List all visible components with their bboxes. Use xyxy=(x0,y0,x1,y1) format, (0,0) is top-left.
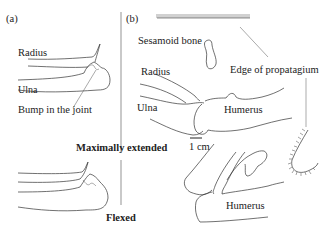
propatagium-edge-top xyxy=(157,14,250,18)
flexed-state-label: Flexed xyxy=(106,212,136,223)
panel-b-humerus-label-top: Humerus xyxy=(224,104,263,115)
panel-b-humerus-label-bottom: Humerus xyxy=(226,200,265,211)
panel-b-extended-bones xyxy=(140,74,292,135)
panel-a-label: (a) xyxy=(6,13,18,25)
extended-state-label: Maximally extended xyxy=(76,142,167,153)
propatagium-label: Edge of propatagium xyxy=(230,64,319,75)
panel-a-bump-label: Bump in the joint xyxy=(18,104,92,115)
panel-b-radius-label: Radius xyxy=(141,66,170,77)
panel-b-ulna-label: Ulna xyxy=(137,102,158,113)
propatagium-edge-curl xyxy=(288,129,318,176)
sesamoid-label: Sesamoid bone xyxy=(138,35,202,46)
sesamoid-bone xyxy=(205,40,217,69)
panel-b-label: (b) xyxy=(126,13,139,25)
propatagium-pointer-top xyxy=(240,27,268,57)
panel-a-flexed-bones xyxy=(18,162,108,211)
wing-joint-diagram: (a) (b) Radius Ulna Bump in the joint Ma… xyxy=(0,0,332,232)
panel-a-ulna-label: Ulna xyxy=(18,84,38,95)
scale-bar-label: 1 cm xyxy=(189,141,210,152)
panel-a-radius-label: Radius xyxy=(18,47,47,58)
